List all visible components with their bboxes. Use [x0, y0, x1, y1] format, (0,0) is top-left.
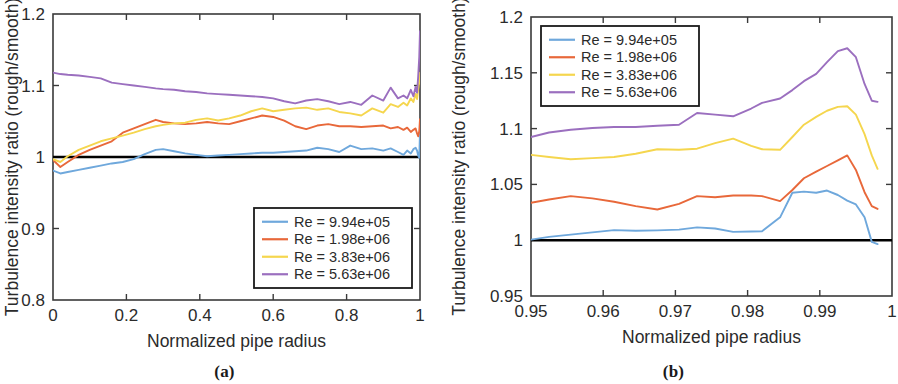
- y-tick-label: 1.2: [499, 8, 523, 27]
- x-tick-label: 1: [415, 306, 424, 325]
- panel-b: 0.950.960.970.980.9910.9511.051.11.151.2…: [449, 0, 898, 384]
- figure-container: 00.20.40.60.810.80.911.11.2Normalized pi…: [0, 0, 898, 384]
- x-tick-label: 1: [887, 302, 896, 321]
- legend: Re = 9.94e+05Re = 1.98e+06Re = 3.83e+06R…: [254, 208, 412, 288]
- y-tick-label: 1.15: [490, 64, 523, 83]
- y-tick-label: 1.05: [490, 175, 523, 194]
- panel-a-caption: (a): [0, 362, 449, 382]
- x-axis-title: Normalized pipe radius: [147, 331, 326, 351]
- y-tick-label: 1: [514, 231, 523, 250]
- y-tick-label: 1.1: [499, 120, 523, 139]
- chart-b: 0.950.960.970.980.9910.9511.051.11.151.2…: [449, 0, 898, 384]
- x-tick-label: 0: [48, 306, 57, 325]
- legend-label-3: Re = 3.83e+06: [581, 67, 677, 83]
- legend-label-2: Re = 1.98e+06: [294, 231, 390, 247]
- x-tick-label: 0.4: [188, 306, 212, 325]
- y-tick-label: 1.1: [21, 77, 45, 96]
- x-tick-label: 0.99: [803, 302, 836, 321]
- panel-b-caption: (b): [449, 362, 898, 382]
- y-tick-label: 0.95: [490, 287, 523, 306]
- legend-label-1: Re = 9.94e+05: [294, 214, 390, 230]
- legend-label-1: Re = 9.94e+05: [581, 32, 677, 48]
- legend-label-3: Re = 3.83e+06: [294, 249, 390, 265]
- panel-a: 00.20.40.60.810.80.911.11.2Normalized pi…: [0, 0, 449, 384]
- legend-label-2: Re = 1.98e+06: [581, 49, 677, 65]
- y-tick-label: 1.2: [21, 5, 45, 24]
- x-tick-label: 0.98: [731, 302, 764, 321]
- x-axis-title: Normalized pipe radius: [622, 327, 801, 347]
- x-tick-label: 0.6: [261, 306, 285, 325]
- y-tick-label: 1: [36, 148, 45, 167]
- x-tick-label: 0.2: [115, 306, 139, 325]
- y-tick-label: 0.8: [21, 291, 45, 310]
- chart-a: 00.20.40.60.810.80.911.11.2Normalized pi…: [0, 0, 449, 384]
- y-axis-title: Turbulence intensity ratio (rough/smooth…: [2, 0, 22, 316]
- legend: Re = 9.94e+05Re = 1.98e+06Re = 3.83e+06R…: [541, 26, 699, 106]
- legend-label-4: Re = 5.63e+06: [294, 266, 390, 282]
- legend-label-4: Re = 5.63e+06: [581, 84, 677, 100]
- x-tick-label: 0.97: [659, 302, 692, 321]
- x-tick-label: 0.96: [587, 302, 620, 321]
- y-tick-label: 0.9: [21, 220, 45, 239]
- y-axis-title: Turbulence intensity ratio (rough/smooth…: [449, 0, 469, 316]
- x-tick-label: 0.8: [335, 306, 359, 325]
